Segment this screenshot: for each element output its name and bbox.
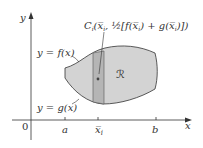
centroid-diagram: y x 0 a x̅i b y = f(x) y = g(x) ℛ Ci(x̅i…: [0, 0, 203, 148]
y-axis-label: y: [19, 12, 26, 23]
tick-label-a: a: [62, 124, 68, 135]
y-axis-arrow-icon: [29, 12, 34, 19]
x-axis-label: x: [185, 120, 191, 131]
region-label: ℛ: [116, 68, 125, 81]
f-curve-label: y = f(x): [36, 47, 75, 58]
tick-label-xi: x̅i: [95, 124, 103, 137]
diagram-canvas: y x 0 a x̅i b y = f(x) y = g(x) ℛ Ci(x̅i…: [0, 0, 203, 148]
centroid-label: Ci(x̅i, ½[f(x̅i) + g(x̅i)]): [84, 20, 188, 32]
origin-label: 0: [22, 121, 28, 132]
tick-label-b: b: [152, 124, 158, 135]
rectangle-strip: [93, 51, 104, 104]
g-curve-label: y = g(x): [36, 102, 77, 113]
centroid-point: [97, 78, 100, 81]
region-r: [65, 46, 157, 104]
